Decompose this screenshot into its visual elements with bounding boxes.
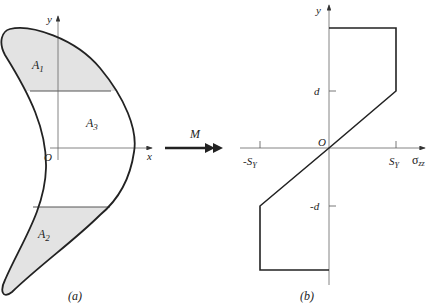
y-axis-label-a: y (46, 13, 52, 25)
tick-label-d: d (314, 85, 320, 97)
tick-label-sy: SY (389, 155, 401, 170)
panel-b: y O d -d -SY SY σzz (b) (240, 4, 426, 303)
caption-b: (b) (300, 289, 314, 303)
origin-label-a: O (44, 151, 52, 163)
diagram-canvas: y x O A1 A3 A2 (a) M y O d -d -SY SY σzz… (0, 0, 430, 307)
y-axis-label-b: y (315, 4, 321, 16)
x-axis-label-a: x (146, 150, 152, 162)
panel-a: y x O A1 A3 A2 (a) (1, 13, 152, 303)
moment-arrowhead-2 (213, 143, 223, 153)
sigma-axis-label: σzz (412, 153, 426, 168)
stress-profile (260, 28, 396, 270)
caption-a: (a) (68, 289, 82, 303)
tick-label-minus-d: -d (310, 200, 320, 212)
moment-label: M (189, 127, 201, 141)
tick-label-minus-sy: -SY (243, 155, 258, 170)
origin-label-b: O (318, 136, 326, 148)
moment-arrow: M (165, 127, 223, 153)
region-label-a3: A3 (85, 116, 98, 132)
